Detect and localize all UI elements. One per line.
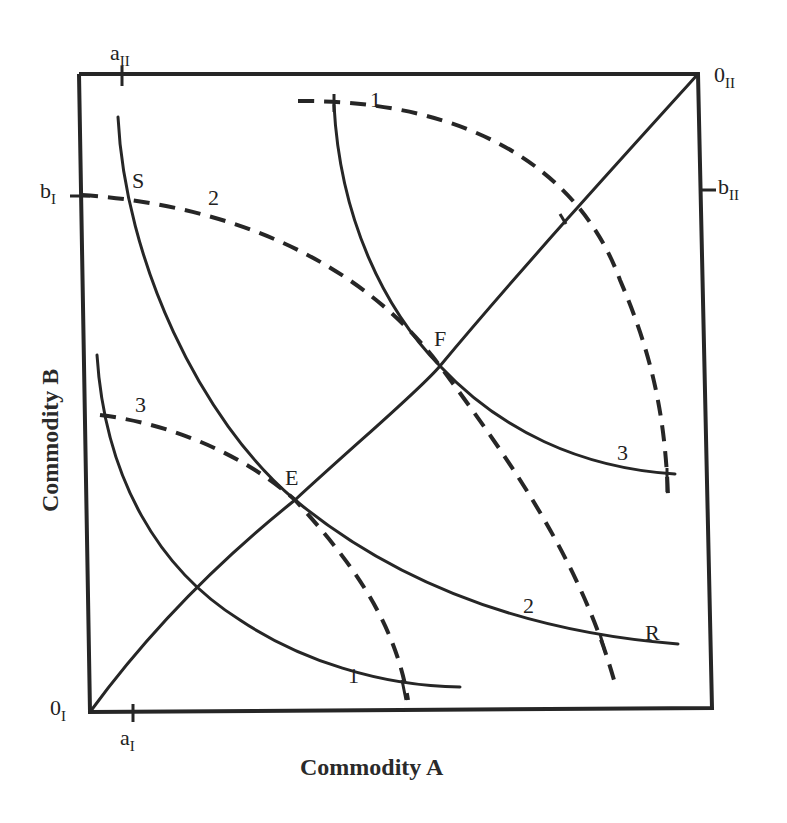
contract-curve — [90, 74, 698, 712]
origin-I-label: 0I — [50, 695, 66, 724]
point-F-label: F — [434, 326, 446, 351]
edgeworth-box-frame — [79, 74, 712, 712]
dashed-curve-2-label: 2 — [208, 185, 219, 210]
b-I-label: bI — [40, 178, 56, 207]
indifference-curve-II-1 — [298, 101, 668, 496]
origin-II-label: 0II — [714, 62, 735, 91]
x-axis-title: Commodity A — [300, 754, 444, 780]
y-axis-title: Commodity B — [37, 369, 63, 512]
dashed-curve-3-label: 3 — [135, 392, 146, 417]
point-S-label: S — [132, 168, 144, 193]
indifference-curve-I-2 — [118, 117, 678, 644]
solid-curve-1-label: 1 — [348, 663, 359, 688]
point-E-label: E — [285, 465, 298, 490]
a-I-label: aI — [120, 725, 135, 754]
solid-curve-3-label: 3 — [617, 440, 628, 465]
edgeworth-box-diagram: 0I 0II aII bI bII aI S E F R 1 2 3 3 2 1… — [0, 0, 787, 823]
point-R-label: R — [645, 620, 660, 645]
a-II-label: aII — [110, 40, 130, 69]
solid-curve-2-label: 2 — [523, 593, 534, 618]
dashed-curve-1-label: 1 — [370, 87, 381, 112]
b-II-label: bII — [718, 174, 739, 203]
